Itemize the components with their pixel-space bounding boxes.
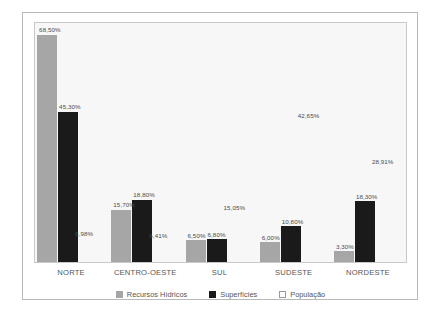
bar-value-label: 68,50% [39, 26, 61, 33]
bar [260, 242, 280, 262]
bar-group [111, 23, 173, 262]
gray-swatch-icon [116, 291, 123, 298]
legend-label: Recursos Hídricos [127, 290, 187, 299]
bar-value-label: 6,41% [149, 232, 167, 239]
category-axis: NORTECENTRO-OESTESULSUDESTENORDESTE [34, 264, 407, 284]
legend-item-superficies: Superfícies [209, 290, 257, 299]
bar-value-label: 6,50% [188, 232, 206, 239]
bar-value-label: 45,30% [59, 103, 81, 110]
bar [355, 201, 375, 262]
bar [334, 251, 354, 262]
bar-value-label: 6,80% [208, 231, 226, 238]
bar-group [37, 23, 99, 262]
bar [207, 239, 227, 262]
bar-value-label: 15,70% [113, 201, 135, 208]
category-label: SUDESTE [257, 268, 331, 277]
legend-item-recursos-hidricos: Recursos Hídricos [116, 290, 187, 299]
chart-legend: Recursos Hídricos Superfícies População [34, 287, 407, 301]
white-swatch-icon [279, 291, 286, 298]
black-swatch-icon [209, 291, 216, 298]
bar [132, 200, 152, 262]
legend-label: População [290, 290, 325, 299]
chart-frame: 68,50%45,30%6,98%15,70%18,80%6,41%6,50%6… [22, 12, 418, 300]
category-label: SUL [182, 268, 256, 277]
bar [186, 240, 206, 262]
bar-value-label: 18,80% [133, 191, 155, 198]
bar-value-label: 42,65% [298, 112, 320, 119]
bar-group [186, 23, 248, 262]
bar-value-label: 3,30% [336, 243, 354, 250]
bar-value-label: 28,91% [372, 158, 394, 165]
plot-area: 68,50%45,30%6,98%15,70%18,80%6,41%6,50%6… [34, 22, 407, 263]
bar [111, 210, 131, 262]
legend-label: Superfícies [220, 290, 257, 299]
category-label: NORTE [34, 268, 108, 277]
category-label: CENTRO-OESTE [108, 268, 182, 277]
bar [58, 112, 78, 262]
bar-value-label: 10,80% [282, 218, 304, 225]
legend-item-populacao: População [279, 290, 325, 299]
bar-value-label: 15,05% [224, 204, 246, 211]
category-label: NORDESTE [331, 268, 405, 277]
bar-value-label: 6,00% [262, 234, 280, 241]
bar [281, 226, 301, 262]
bar-value-label: 18,30% [356, 193, 378, 200]
bar-value-label: 6,98% [75, 230, 93, 237]
bar [37, 35, 57, 262]
bar-group [260, 23, 322, 262]
bar-group [334, 23, 396, 262]
